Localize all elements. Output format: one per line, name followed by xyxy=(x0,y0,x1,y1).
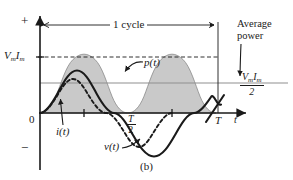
average-power-numerator: VmIm xyxy=(240,71,264,86)
power-callout-arrow xyxy=(125,62,143,72)
peak-i-subscript: m xyxy=(19,55,24,63)
peak-power-axis-label: VmIm xyxy=(4,50,25,63)
current-curve-label: i(t) xyxy=(56,126,69,137)
y-axis-plus-label: + xyxy=(21,14,28,27)
voltage-curve-label: v(t) xyxy=(104,141,119,152)
x-tick-label-period: T xyxy=(215,115,221,126)
average-power-line2: power xyxy=(237,30,263,41)
power-curve-label: p(t) xyxy=(144,57,160,68)
power-curve-fill xyxy=(40,54,216,113)
figure-caption: (b) xyxy=(0,161,293,172)
origin-label: 0 xyxy=(29,114,35,125)
power-waveform-figure: + − 0 VmIm 1 cycle Average power VmIm 2 … xyxy=(0,0,293,180)
half-period-denominator: 2 xyxy=(126,125,136,136)
peak-v-symbol: V xyxy=(4,49,11,61)
average-power-label: Average power xyxy=(237,18,272,42)
one-cycle-label: 1 cycle xyxy=(110,19,147,30)
average-power-value-label: VmIm 2 xyxy=(240,71,264,97)
x-axis-label: t xyxy=(234,115,237,125)
average-power-line1: Average xyxy=(237,18,272,29)
y-axis-minus-label: − xyxy=(21,141,28,154)
x-tick-label-half-period: T 2 xyxy=(126,114,136,136)
average-power-denominator: 2 xyxy=(240,86,264,97)
